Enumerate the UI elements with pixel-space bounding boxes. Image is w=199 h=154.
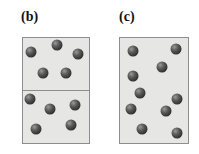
particle-sphere [70, 100, 81, 111]
particle-sphere [126, 104, 137, 115]
panel-c-label: (c) [119, 10, 135, 24]
particle-sphere [45, 104, 56, 115]
particle-sphere [172, 128, 183, 139]
particle-sphere [38, 68, 49, 79]
particle-sphere [73, 49, 84, 60]
particle-sphere [26, 47, 37, 58]
particle-sphere [161, 106, 172, 117]
particle-sphere [135, 88, 146, 99]
panel-b-partition [23, 90, 89, 91]
particle-sphere [157, 62, 168, 73]
particle-sphere [66, 120, 77, 131]
panel-b-label: (b) [21, 10, 38, 24]
particle-sphere [31, 124, 42, 135]
particle-sphere [52, 40, 63, 51]
particle-sphere [137, 124, 148, 135]
particle-sphere [172, 94, 183, 105]
particle-sphere [128, 71, 139, 82]
particle-sphere [171, 44, 182, 55]
particle-sphere [61, 68, 72, 79]
particle-sphere [25, 94, 36, 105]
particle-sphere [128, 46, 139, 57]
